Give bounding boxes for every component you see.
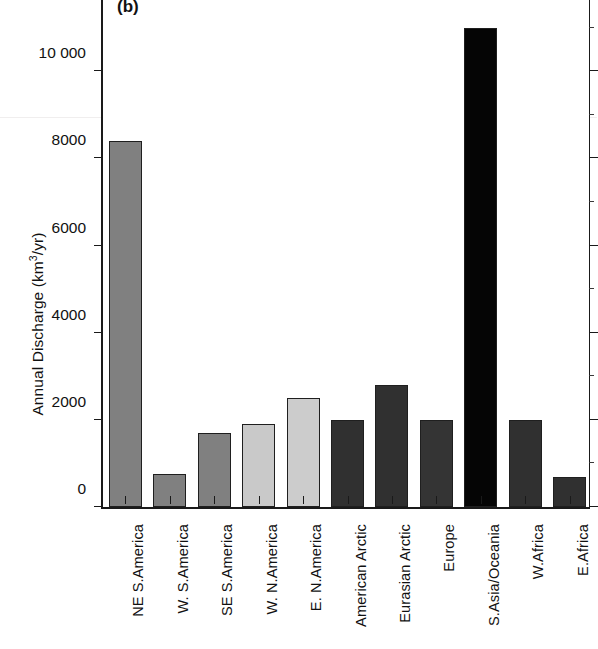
y-axis-title-exponent: 3 — [27, 255, 39, 261]
bar — [464, 28, 497, 507]
y-tick-label: 10 000 — [0, 44, 86, 62]
y-tick-mark — [94, 332, 103, 333]
x-tick-label: E. N.America — [308, 524, 324, 611]
panel-label: (b) — [117, 0, 139, 17]
x-tick-label: S.Asia/Oceania — [486, 524, 502, 626]
bar — [287, 398, 320, 507]
x-tick-label: Eurasian Arctic — [397, 524, 413, 623]
y-minor-tick-right — [589, 114, 594, 115]
y-tick-mark-right — [589, 245, 598, 246]
x-tick-mark — [214, 496, 215, 504]
x-tick-mark — [525, 496, 526, 504]
y-tick-mark-right — [589, 70, 598, 71]
y-tick-label: 0 — [0, 480, 86, 498]
x-tick-mark — [436, 496, 437, 504]
x-tick-mark — [570, 496, 571, 504]
x-tick-label: W. N.America — [264, 524, 280, 614]
plot-area: (b) 0200040006000800010 00012 000 — [101, 0, 590, 509]
y-tick-label: 2000 — [0, 393, 86, 411]
y-minor-tick-right — [589, 27, 594, 28]
x-tick-label: Europe — [441, 524, 457, 572]
x-tick-label: W. S.America — [175, 524, 191, 614]
bar — [375, 385, 408, 507]
y-tick-mark-right — [589, 419, 598, 420]
x-tick-label: SE S.America — [219, 524, 235, 616]
x-tick-label: W.Africa — [530, 524, 546, 579]
x-tick-label: NE S.America — [130, 524, 146, 617]
y-axis-title: Annual Discharge (km3/yr) — [29, 144, 47, 504]
y-tick-mark-right — [589, 506, 598, 507]
y-tick-label: 4000 — [0, 306, 86, 324]
bar — [109, 141, 142, 507]
bar — [420, 420, 453, 507]
y-tick-mark — [94, 157, 103, 158]
y-minor-tick-right — [589, 201, 594, 202]
y-tick-label: 8000 — [0, 131, 86, 149]
y-tick-label: 6000 — [0, 219, 86, 237]
x-tick-mark — [303, 496, 304, 504]
y-tick-mark-right — [589, 332, 598, 333]
bar — [331, 420, 364, 507]
y-minor-tick-right — [589, 375, 594, 376]
x-tick-mark — [125, 496, 126, 504]
y-tick-mark — [94, 506, 103, 507]
bar — [509, 420, 542, 507]
x-tick-label: E.Africa — [575, 524, 591, 576]
y-tick-mark — [94, 245, 103, 246]
bar — [242, 424, 275, 507]
x-tick-mark — [348, 496, 349, 504]
x-tick-mark — [170, 496, 171, 504]
y-tick-mark — [94, 70, 103, 71]
x-tick-label: American Arctic — [353, 524, 369, 627]
x-tick-mark — [481, 496, 482, 504]
y-tick-mark-right — [589, 157, 598, 158]
y-minor-tick-right — [589, 462, 594, 463]
y-minor-tick-right — [589, 288, 594, 289]
x-tick-mark — [392, 496, 393, 504]
x-tick-mark — [259, 496, 260, 504]
y-tick-mark — [94, 419, 103, 420]
